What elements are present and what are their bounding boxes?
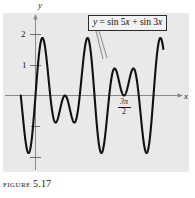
y-axis-label: y bbox=[38, 0, 42, 10]
caption-number: 5.17 bbox=[33, 178, 51, 189]
equation-term-2: sin 3x bbox=[140, 17, 162, 27]
fraction-denominator: 2 bbox=[113, 108, 135, 116]
equation-term-1: sin 5x bbox=[107, 17, 129, 27]
y-axis-arrow bbox=[33, 14, 38, 20]
equation-plus: + bbox=[130, 17, 140, 27]
function-curve bbox=[21, 38, 164, 153]
equation-callout-box: y = sin 5x + sin 3x bbox=[88, 15, 167, 31]
y-tick-label-1: 1 bbox=[22, 60, 27, 70]
callout-leader-line bbox=[99, 31, 107, 58]
x-tick-label-3pi-over-2: 3π 2 bbox=[113, 98, 135, 116]
x-axis-arrow bbox=[178, 93, 184, 98]
figure-caption: FIGURE 5.17 bbox=[3, 178, 51, 189]
caption-word: FIGURE bbox=[3, 181, 31, 189]
callout-leader-line-2 bbox=[96, 31, 103, 59]
figure-container: 2 1 y x 3π 2 y = sin 5x + sin 3x FIGURE … bbox=[0, 0, 195, 198]
fraction-numerator: 3π bbox=[113, 98, 135, 106]
x-axis-label: x bbox=[184, 91, 188, 101]
y-tick-label-2: 2 bbox=[21, 29, 26, 39]
equation-equals: = bbox=[97, 17, 107, 27]
